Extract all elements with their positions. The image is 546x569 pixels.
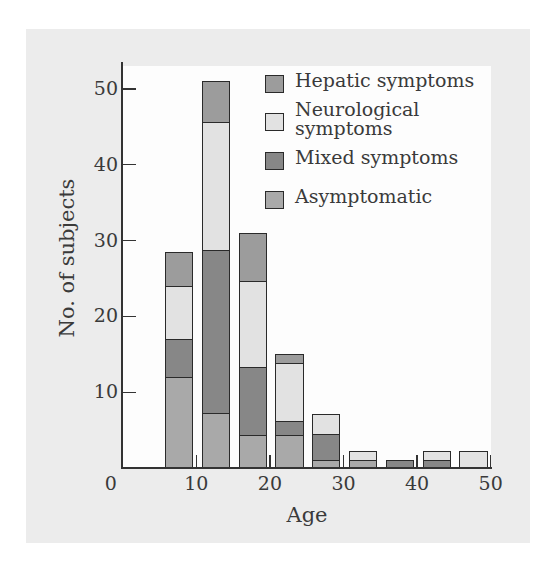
bar-segment-neurological-symptoms (239, 281, 267, 368)
x-tick (269, 455, 270, 467)
bar-segment-hepatic-symptoms (275, 354, 303, 363)
legend-swatch-mixed (265, 152, 284, 170)
legend-label-neurological-line2: symptoms (295, 118, 495, 138)
x-tick (416, 455, 417, 467)
y-tick-label: 10 (78, 381, 118, 401)
x-tick (196, 455, 197, 467)
legend-swatch-neurological (265, 113, 284, 131)
bar-segment-mixed-symptoms (275, 421, 303, 436)
y-axis (121, 62, 123, 469)
legend-label-hepatic: Hepatic symptoms (295, 70, 495, 90)
bar-segment-asymptomatic (275, 435, 303, 469)
bar-segment-asymptomatic (239, 435, 267, 469)
bar-segment-mixed-symptoms (312, 434, 340, 462)
bar-segment-hepatic-symptoms (165, 252, 193, 287)
legend-swatch-asymptomatic (265, 191, 284, 209)
y-tick (122, 240, 136, 241)
bar-segment-neurological-symptoms (202, 122, 230, 252)
bar-segment-hepatic-symptoms (239, 233, 267, 282)
x-axis (121, 467, 492, 469)
y-tick-label: 20 (78, 305, 118, 325)
x-tick (490, 455, 491, 467)
x-tick (343, 455, 344, 467)
bar-segment-hepatic-symptoms (202, 81, 230, 122)
bar-segment-neurological-symptoms (312, 414, 340, 435)
x-tick-label: 30 (324, 472, 364, 494)
x-tick-label: 0 (91, 472, 131, 494)
y-tick (122, 164, 136, 165)
x-tick-label: 10 (176, 472, 216, 494)
legend-swatch-hepatic (265, 75, 284, 93)
bar-segment-asymptomatic (202, 413, 230, 469)
bar-segment-asymptomatic (165, 377, 193, 469)
bar-segment-neurological-symptoms (275, 363, 303, 422)
y-axis-title: No. of subjects (55, 168, 79, 348)
bar-segment-mixed-symptoms (165, 339, 193, 378)
bar-segment-mixed-symptoms (202, 250, 230, 414)
y-tick (122, 392, 136, 393)
x-axis-title: Age (277, 503, 337, 527)
legend-label-mixed: Mixed symptoms (295, 147, 495, 167)
y-tick-label: 30 (78, 230, 118, 250)
bar-segment-neurological-symptoms (423, 451, 451, 461)
y-tick (122, 88, 136, 89)
bar-segment-neurological-symptoms (165, 286, 193, 340)
legend-label-asymptomatic: Asymptomatic (295, 186, 495, 206)
x-tick-label: 40 (397, 472, 437, 494)
y-tick (122, 316, 136, 317)
y-tick-label: 50 (78, 78, 118, 98)
y-tick-label: 40 (78, 154, 118, 174)
x-tick-label: 50 (471, 472, 511, 494)
bar-segment-neurological-symptoms (349, 451, 377, 461)
x-tick-label: 20 (250, 472, 290, 494)
legend-label-neurological-line1: Neurological (295, 99, 495, 119)
bar-segment-mixed-symptoms (239, 367, 267, 436)
